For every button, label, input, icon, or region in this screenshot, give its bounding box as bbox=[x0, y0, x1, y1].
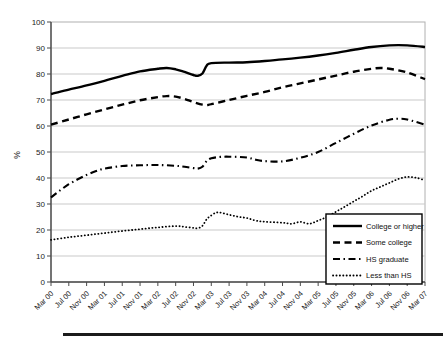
x-tick-label: Mar 04 bbox=[246, 289, 269, 312]
y-tick-label: 90 bbox=[36, 44, 45, 53]
x-tick-label: Nov 00 bbox=[68, 289, 91, 312]
x-tick-label: Mar 00 bbox=[33, 289, 56, 312]
x-tick-label: Mar 03 bbox=[193, 289, 216, 312]
y-tick-label: 40 bbox=[36, 174, 45, 183]
x-tick-label: Nov 03 bbox=[228, 289, 251, 312]
y-tick-label: 0 bbox=[41, 278, 46, 287]
series-line-hs-graduate bbox=[51, 119, 425, 198]
x-tick-label: Nov 01 bbox=[121, 289, 144, 312]
y-tick-label: 100 bbox=[32, 18, 46, 27]
y-tick-label: 20 bbox=[36, 226, 45, 235]
legend-label-hs-graduate: HS graduate bbox=[366, 255, 409, 264]
y-axis-label: % bbox=[12, 151, 22, 159]
x-tick-label: Mar 05 bbox=[300, 289, 323, 312]
x-tick-label: Mar 01 bbox=[86, 289, 109, 312]
legend-label-some-college: Some college bbox=[366, 238, 412, 247]
figure: 0102030405060708090100Mar 00Jul 00Nov 00… bbox=[0, 0, 443, 340]
y-tick-label: 80 bbox=[36, 70, 45, 79]
x-tick-label: Nov 05 bbox=[335, 289, 358, 312]
x-tick-label: Mar 06 bbox=[353, 289, 376, 312]
x-tick-label: Mar 07 bbox=[407, 289, 430, 312]
x-tick-label: Mar 02 bbox=[139, 289, 162, 312]
y-tick-label: 60 bbox=[36, 122, 45, 131]
y-tick-label: 10 bbox=[36, 252, 45, 261]
y-tick-label: 30 bbox=[36, 200, 45, 209]
x-tick-label: Nov 04 bbox=[282, 289, 305, 312]
education-percentage-line-chart: 0102030405060708090100Mar 00Jul 00Nov 00… bbox=[0, 0, 443, 340]
legend-label-college-or-higher: College or higher bbox=[366, 222, 424, 231]
legend-label-less-than-hs: Less than HS bbox=[366, 271, 412, 280]
x-tick-label: Nov 06 bbox=[388, 289, 411, 312]
y-tick-label: 50 bbox=[36, 148, 45, 157]
series-line-some-college bbox=[51, 68, 425, 125]
x-tick-label: Nov 02 bbox=[175, 289, 198, 312]
y-tick-label: 70 bbox=[36, 96, 45, 105]
